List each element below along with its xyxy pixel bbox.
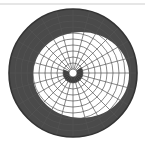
polar-grid-diagram [0, 0, 145, 148]
center-hole [69, 69, 77, 77]
